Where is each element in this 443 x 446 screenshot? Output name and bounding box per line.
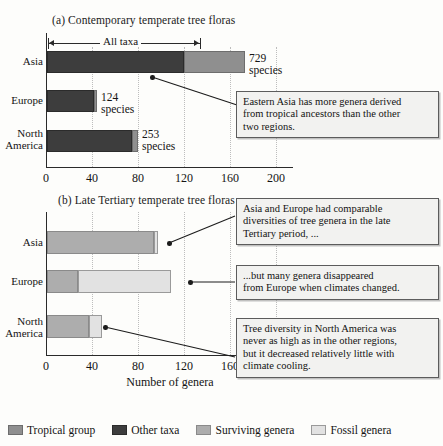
callout-line: from tropical ancestors than the other [243, 108, 433, 120]
callout-asia-europe-comparable: Asia and Europe had comparable diversiti… [236, 198, 439, 245]
callout-line: ...but many genera disappeared [243, 270, 433, 282]
tropical-group-swatch-icon [8, 425, 23, 435]
callout-north-america-diversity: Tree diversity in North America was neve… [236, 318, 439, 378]
leader-dot-north-america-diversity [103, 325, 108, 330]
legend-label: Tropical group [27, 424, 95, 436]
callout-line: diversities of tree genera in the late [243, 215, 433, 227]
legend-label: Other taxa [131, 424, 179, 436]
legend-item-other-taxa: Other taxa [112, 424, 179, 436]
fossil-genera-swatch-icon [311, 425, 326, 435]
surviving-genera-swatch-icon [196, 425, 211, 435]
callout-line: never as high as in the other regions, [243, 335, 433, 347]
callout-asia-tropical: Eastern Asia has more genera derived fro… [236, 91, 439, 138]
callout-line: Tertiary period, ... [243, 228, 433, 240]
legend-label: Surviving genera [215, 424, 294, 436]
callout-line: Asia and Europe had comparable [243, 203, 433, 215]
legend-item-fossil-genera: Fossil genera [311, 424, 391, 436]
callout-line: Eastern Asia has more genera derived [243, 96, 433, 108]
other-taxa-swatch-icon [112, 425, 127, 435]
callout-line: Tree diversity in North America was [243, 323, 433, 335]
callout-line: but it decreased relatively little with [243, 348, 433, 360]
legend: Tropical group Other taxa Surviving gene… [8, 424, 391, 436]
leader-dot-asia-tropical [150, 75, 155, 80]
legend-item-surviving-genera: Surviving genera [196, 424, 294, 436]
leader-dot-europe-disappeared [188, 280, 193, 285]
legend-label: Fossil genera [330, 424, 391, 436]
callout-line: from Europe when climates changed. [243, 282, 433, 294]
callout-line: climate cooling. [243, 360, 433, 372]
legend-item-tropical-group: Tropical group [8, 424, 95, 436]
callout-europe-disappeared: ...but many genera disappeared from Euro… [236, 265, 439, 300]
leader-dot-asia-europe-comparable [167, 241, 172, 246]
callout-line: two regions. [243, 121, 433, 133]
figure-root: (a) Contemporary temperate tree floras A… [0, 0, 443, 446]
